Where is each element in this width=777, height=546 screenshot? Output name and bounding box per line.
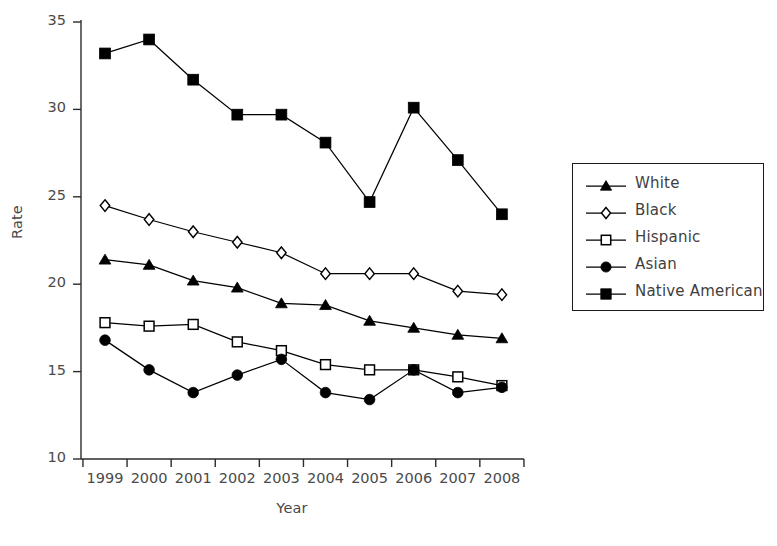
marker-open-diamond — [233, 236, 243, 248]
legend-key-filled-circle-icon — [583, 253, 629, 282]
legend-key-filled-triangle-icon — [583, 172, 629, 201]
legend-label: Black — [635, 201, 677, 219]
marker-open-diamond — [321, 268, 331, 280]
page-footer-text — [0, 529, 420, 543]
marker-open-diamond — [188, 226, 198, 238]
series-asian — [100, 335, 508, 405]
marker-open-diamond — [144, 214, 154, 226]
y-tick-label: 15 — [28, 362, 66, 378]
marker-filled-circle — [453, 387, 464, 398]
legend-label: Asian — [635, 255, 677, 273]
marker-filled-square — [408, 102, 419, 113]
marker-open-square — [453, 372, 463, 382]
marker-filled-triangle — [364, 315, 376, 325]
marker-open-square — [188, 320, 198, 330]
series-line — [105, 206, 502, 295]
legend-item-black[interactable]: Black — [573, 199, 763, 228]
marker-filled-triangle — [276, 298, 288, 308]
marker-filled-circle — [408, 365, 419, 376]
marker-open-square — [601, 235, 610, 244]
marker-open-diamond — [277, 247, 287, 259]
marker-filled-square — [320, 137, 331, 148]
marker-filled-circle — [497, 382, 508, 393]
y-axis-title: Rate — [9, 205, 25, 239]
series-white — [99, 254, 508, 343]
marker-open-diamond — [365, 268, 375, 280]
y-tick-label: 30 — [28, 99, 66, 115]
marker-filled-circle — [364, 394, 375, 405]
axes — [73, 20, 524, 467]
legend: WhiteBlackHispanicAsianNative American — [572, 163, 764, 311]
y-tick-label: 25 — [28, 187, 66, 203]
marker-filled-square — [452, 155, 463, 166]
marker-open-square — [100, 318, 110, 328]
series-native-american — [100, 34, 508, 220]
y-axis-ticks — [73, 22, 81, 459]
marker-filled-square — [276, 109, 287, 120]
series-hispanic — [100, 318, 507, 391]
marker-filled-square — [232, 109, 243, 120]
x-tick-label: 2008 — [476, 470, 528, 486]
marker-open-diamond — [453, 285, 463, 297]
legend-item-asian[interactable]: Asian — [573, 253, 763, 282]
legend-key-open-diamond-icon — [583, 199, 629, 228]
series-black — [100, 200, 506, 301]
y-tick-label: 35 — [28, 12, 66, 28]
legend-item-white[interactable]: White — [573, 172, 763, 201]
marker-filled-circle — [188, 387, 199, 398]
marker-open-diamond — [497, 289, 507, 301]
y-tick-label: 10 — [28, 449, 66, 465]
marker-filled-square — [188, 74, 199, 85]
series-line — [105, 260, 502, 339]
marker-filled-circle — [276, 354, 287, 365]
series-line — [105, 340, 502, 399]
marker-filled-circle — [601, 262, 611, 272]
series-line — [105, 39, 502, 214]
marker-filled-circle — [144, 365, 155, 376]
marker-filled-square — [364, 197, 375, 208]
marker-filled-circle — [100, 335, 111, 346]
x-axis-ticks — [83, 459, 524, 467]
marker-filled-triangle — [99, 254, 111, 264]
marker-filled-circle — [232, 370, 243, 381]
legend-item-native-american[interactable]: Native American — [573, 280, 763, 309]
marker-open-square — [321, 360, 331, 370]
chart-figure: Rate Year 101520253035 19992000200120022… — [0, 0, 777, 546]
marker-filled-square — [497, 209, 508, 220]
marker-open-square — [232, 337, 242, 347]
marker-filled-square — [601, 289, 611, 299]
marker-open-square — [144, 321, 154, 331]
marker-filled-triangle — [187, 275, 199, 285]
x-axis-title: Year — [0, 500, 584, 516]
y-tick-label: 20 — [28, 274, 66, 290]
marker-open-square — [365, 365, 375, 375]
legend-item-hispanic[interactable]: Hispanic — [573, 226, 763, 255]
data-series-group — [99, 34, 508, 405]
legend-label: Hispanic — [635, 228, 701, 246]
marker-open-diamond — [601, 207, 610, 218]
marker-filled-circle — [320, 387, 331, 398]
legend-key-filled-square-icon — [583, 280, 629, 309]
marker-filled-square — [100, 48, 111, 59]
legend-key-open-square-icon — [583, 226, 629, 255]
marker-open-diamond — [100, 200, 110, 212]
legend-label: Native American — [635, 282, 763, 300]
legend-label: White — [635, 174, 680, 192]
marker-open-diamond — [409, 268, 419, 280]
marker-filled-square — [144, 34, 155, 45]
